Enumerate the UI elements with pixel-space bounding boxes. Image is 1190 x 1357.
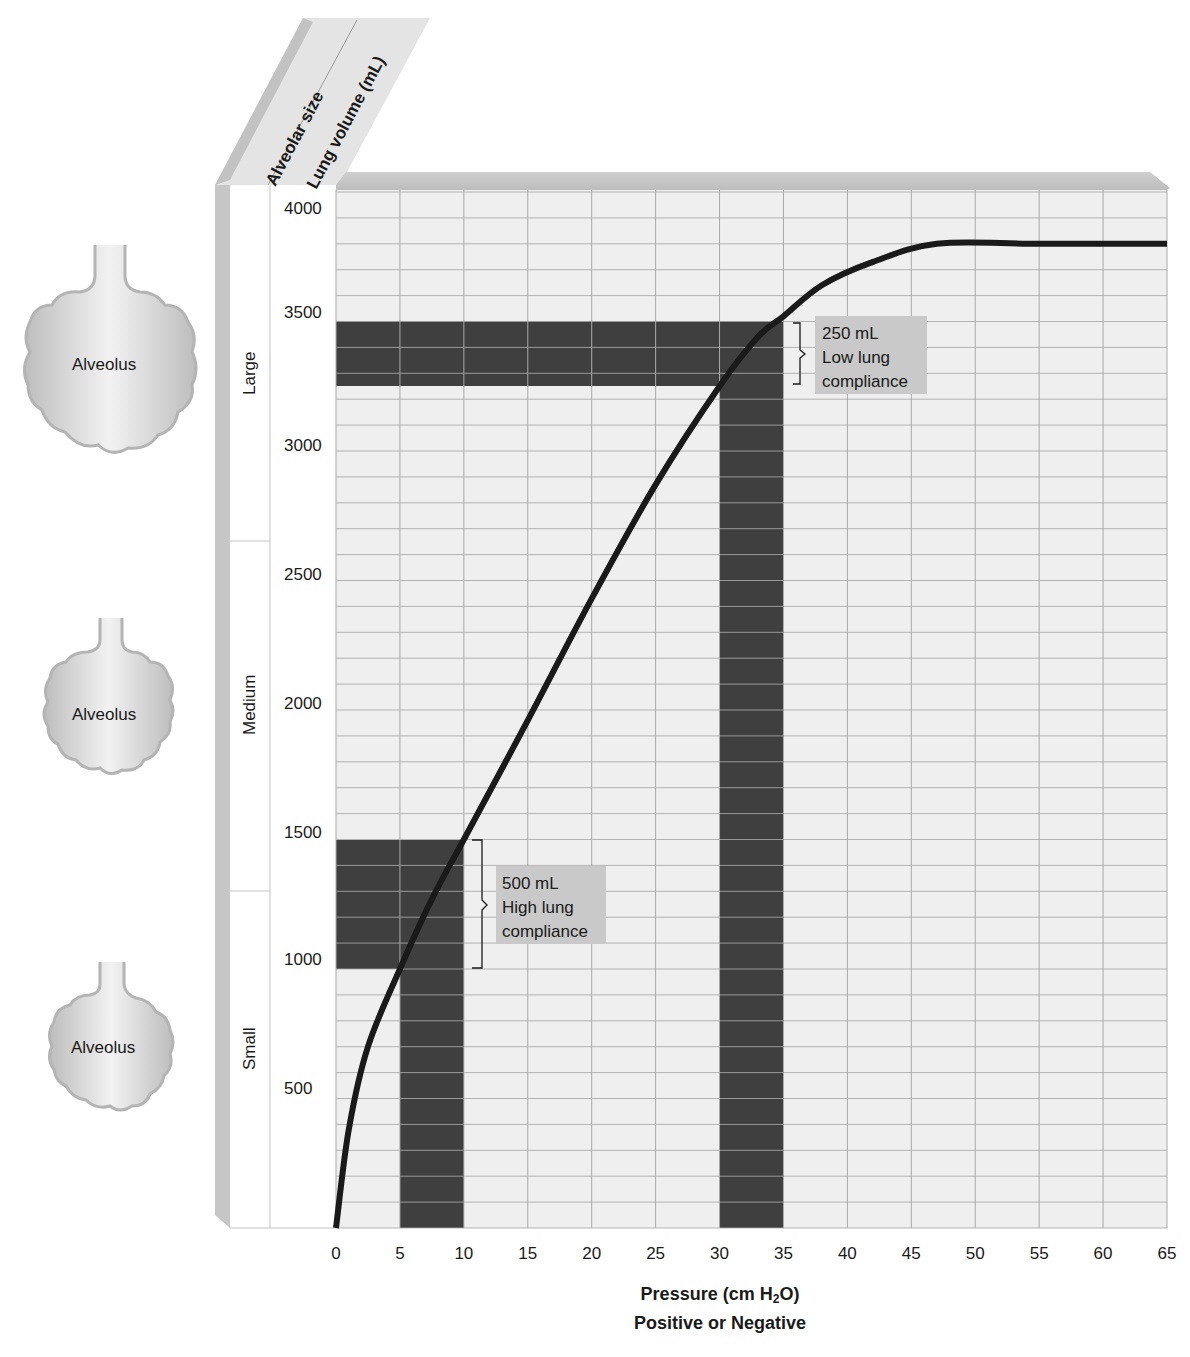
annotation-low: 250 mL Low lung compliance [822,322,908,394]
annotation-low-text1: Low lung [822,346,908,370]
x-tick: 50 [955,1244,995,1264]
size-label-large: Large [240,352,260,395]
lung-compliance-chart [0,0,1190,1357]
x-tick: 0 [316,1244,356,1264]
y-tick: 500 [284,1079,312,1099]
y-tick: 4000 [284,199,322,219]
x-tick: 60 [1083,1244,1123,1264]
y-tick: 1000 [284,950,322,970]
alveolus-label-small: Alveolus [71,1038,135,1058]
alveolus-label-large: Alveolus [72,355,136,375]
y-tick: 3500 [284,303,322,323]
y-tick: 2000 [284,694,322,714]
x-tick: 20 [572,1244,612,1264]
alveolus-small-icon [49,962,173,1110]
x-tick: 5 [380,1244,420,1264]
x-axis-title-line1: Pressure (cm H2O) [520,1282,920,1311]
annotation-low-volume: 250 mL [822,322,908,346]
x-tick: 55 [1019,1244,1059,1264]
annotation-low-text2: compliance [822,370,908,394]
y-tick: 2500 [284,565,322,585]
annotation-high: 500 mL High lung compliance [502,872,588,944]
annotation-high-text1: High lung [502,896,588,920]
x-tick: 65 [1147,1244,1187,1264]
size-label-small: Small [240,1027,260,1070]
annotation-high-text2: compliance [502,920,588,944]
alveolus-large-icon [24,245,196,452]
alveolus-label-medium: Alveolus [72,705,136,725]
x-tick: 30 [700,1244,740,1264]
x-tick: 45 [891,1244,931,1264]
y-tick: 3000 [284,436,322,456]
x-axis-title-line2: Positive or Negative [520,1311,920,1335]
annotation-high-volume: 500 mL [502,872,588,896]
x-tick: 40 [827,1244,867,1264]
x-tick: 25 [636,1244,676,1264]
x-tick: 35 [763,1244,803,1264]
size-label-medium: Medium [240,675,260,735]
x-tick: 15 [508,1244,548,1264]
x-axis-title: Pressure (cm H2O) Positive or Negative [520,1282,920,1335]
y-tick: 1500 [284,823,322,843]
x-tick: 10 [444,1244,484,1264]
alveolus-medium-icon [44,618,173,774]
